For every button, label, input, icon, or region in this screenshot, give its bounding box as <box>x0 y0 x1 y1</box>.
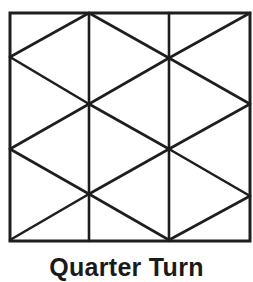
grid-line <box>10 104 89 149</box>
figure-caption: Quarter Turn <box>0 252 253 282</box>
grid-lines <box>10 13 250 241</box>
grid-line <box>10 57 89 104</box>
grid-line <box>10 194 89 240</box>
grid-line <box>169 58 250 104</box>
grid-line <box>10 13 89 57</box>
grid-line <box>10 149 89 194</box>
grid-line <box>89 104 169 149</box>
grid-line <box>89 194 169 240</box>
grid-line <box>89 149 169 194</box>
grid-line <box>89 58 169 104</box>
grid-line <box>169 104 250 149</box>
grid-line <box>169 13 250 58</box>
grid-line <box>169 149 250 196</box>
grid-line <box>169 196 250 240</box>
grid-line <box>89 13 169 58</box>
